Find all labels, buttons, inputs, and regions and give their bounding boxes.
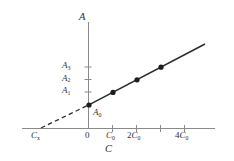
- x-tick-label-4c0: 4C0: [175, 131, 188, 140]
- data-point: [86, 102, 91, 107]
- x-tick-label-c0: C0: [106, 131, 115, 140]
- point-label-a0: A0: [93, 108, 101, 117]
- standard-addition-plot: A C A3 A2 A1 A0 Cx 0 C0 2C0 4C0: [0, 0, 234, 161]
- y-tick-label-a3: A3: [62, 61, 70, 70]
- best-fit-line: [87, 44, 205, 106]
- y-tick-label-a2: A2: [62, 74, 70, 83]
- data-point: [134, 77, 139, 82]
- extrapolation-dashed-line: [41, 105, 89, 128]
- x-tick-label-2c0: 2C0: [127, 131, 140, 140]
- data-point: [110, 90, 115, 95]
- x-axis-title: C: [105, 144, 112, 155]
- x-tick-label-cx: Cx: [31, 131, 40, 140]
- x-tick-label-zero: 0: [85, 131, 90, 140]
- data-point: [158, 65, 163, 70]
- y-tick-label-a1: A1: [62, 86, 70, 95]
- y-axis-title: A: [79, 12, 85, 23]
